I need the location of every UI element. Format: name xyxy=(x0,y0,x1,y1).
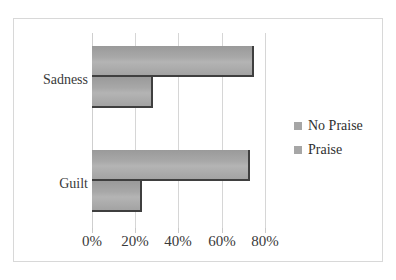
xtick-label-20: 20% xyxy=(121,233,149,250)
gridline-80 xyxy=(265,33,266,228)
legend-item-praise[interactable]: Praise xyxy=(294,143,378,157)
xtick-label-80: 80% xyxy=(251,233,279,250)
legend-swatch-icon-no-praise xyxy=(294,122,302,130)
legend-item-no-praise[interactable]: No Praise xyxy=(294,119,378,133)
legend-label-praise: Praise xyxy=(308,143,342,157)
bar-guilt-praise[interactable] xyxy=(92,181,142,212)
bar-sadness-no-praise[interactable] xyxy=(92,46,254,77)
bar-sadness-praise[interactable] xyxy=(92,77,153,108)
legend-swatch-icon-praise xyxy=(294,146,302,154)
legend: No Praise Praise xyxy=(294,119,378,167)
chart-container: 0% 20% 40% 60% 80% Sadness Guilt No Prai… xyxy=(0,0,396,280)
bar-guilt-no-praise[interactable] xyxy=(92,150,250,181)
xtick-label-60: 60% xyxy=(208,233,236,250)
legend-label-no-praise: No Praise xyxy=(308,119,363,133)
xtick-label-0: 0% xyxy=(82,233,102,250)
category-label-sadness: Sadness xyxy=(43,72,88,88)
category-label-guilt: Guilt xyxy=(59,176,88,192)
xtick-label-40: 40% xyxy=(164,233,192,250)
plot-area xyxy=(92,33,265,228)
